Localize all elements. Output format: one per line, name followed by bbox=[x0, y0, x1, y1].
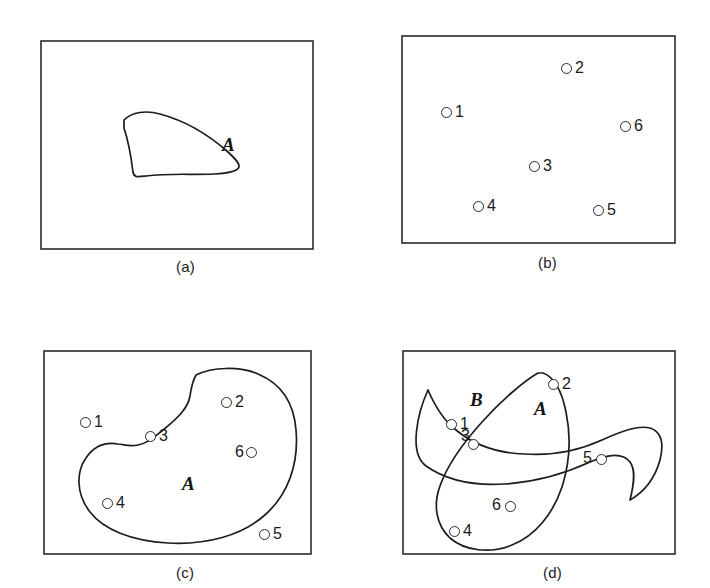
region-label-a-panel-d: A bbox=[534, 399, 547, 418]
point-label-5: 5 bbox=[583, 450, 592, 466]
point-label-3: 3 bbox=[461, 428, 470, 444]
panel-d-frame bbox=[403, 351, 675, 554]
point-label-6: 6 bbox=[492, 497, 501, 513]
point-marker-2 bbox=[548, 379, 559, 390]
figure-root: A (a) 1 2 3 4 5 6 (b) 1 2 3 4 bbox=[0, 0, 710, 588]
point-marker-4 bbox=[449, 526, 460, 537]
point-marker-1 bbox=[446, 419, 457, 430]
point-label-4: 4 bbox=[463, 523, 472, 539]
region-label-b-panel-d: B bbox=[470, 390, 483, 409]
region-a-outline bbox=[436, 373, 569, 550]
point-label-2: 2 bbox=[562, 376, 571, 392]
caption-panel-d: (d) bbox=[543, 564, 562, 581]
point-marker-5 bbox=[596, 454, 607, 465]
point-marker-6 bbox=[505, 501, 516, 512]
panel-d-graphics bbox=[0, 0, 710, 588]
